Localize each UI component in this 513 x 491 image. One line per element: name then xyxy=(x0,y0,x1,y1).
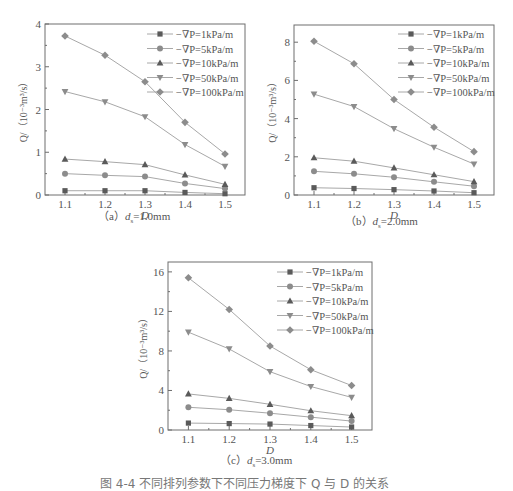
y-tick-label: 4 xyxy=(36,18,42,30)
legend-label: −∇P=100kPa/m xyxy=(306,325,374,336)
subcaption-c: （c）ds=3.0mm xyxy=(220,451,292,469)
diamond-marker-icon xyxy=(470,148,478,156)
triangle-down-marker-icon xyxy=(348,395,355,401)
series-circle xyxy=(185,404,354,424)
triangle-down-marker-icon xyxy=(471,161,478,167)
square-marker-icon xyxy=(311,185,316,190)
series-triangle-down xyxy=(185,330,355,401)
legend-label: −∇P=5kPa/m xyxy=(176,44,233,55)
x-tick-label: 1.4 xyxy=(427,198,441,210)
chart-a-svg: 012341.11.21.31.41.5DQ/（10⁻³m³/s）−∇P=1kP… xyxy=(0,0,260,232)
circle-marker-icon xyxy=(267,410,273,416)
y-tick-label: 0 xyxy=(159,424,165,436)
legend: −∇P=1kPa/m−∇P=5kPa/m−∇P=10kPa/m−∇P=50kPa… xyxy=(147,29,244,98)
triangle-up-marker-icon xyxy=(62,155,69,161)
triangle-up-marker-icon xyxy=(311,154,318,160)
x-tick-label: 1.5 xyxy=(345,433,359,445)
y-tick-label: 0 xyxy=(36,189,42,201)
x-tick-label: 1.4 xyxy=(178,198,192,210)
legend-label: −∇P=10kPa/m xyxy=(176,58,238,69)
circle-marker-icon xyxy=(351,171,357,177)
chart-panel-b: 024681.11.21.31.41.5DQ/（10⁻³m³/s）−∇P=1kP… xyxy=(253,0,513,232)
square-marker-icon xyxy=(142,188,147,193)
y-tick-label: 16 xyxy=(153,266,165,278)
y-tick-label: 1 xyxy=(36,146,42,158)
diamond-marker-icon xyxy=(310,37,318,45)
chart-panel-c: 04812161.11.21.31.41.5DQ/（10⁻³m³/s）−∇P=1… xyxy=(120,240,410,460)
y-tick-label: 12 xyxy=(153,305,164,317)
square-marker-icon xyxy=(471,190,476,195)
square-marker-icon xyxy=(62,188,67,193)
square-marker-icon xyxy=(287,269,292,274)
legend-label: −∇P=100kPa/m xyxy=(427,87,495,98)
square-marker-icon xyxy=(308,423,313,428)
legend-label: −∇P=50kPa/m xyxy=(306,311,368,322)
triangle-down-marker-icon xyxy=(182,142,189,148)
legend-label: −∇P=1kPa/m xyxy=(427,29,484,40)
chart-b-svg: 024681.11.21.31.41.5DQ/（10⁻³m³/s）−∇P=1kP… xyxy=(253,0,513,232)
square-marker-icon xyxy=(227,421,232,426)
subcaption-a: （a）ds=1.0mm xyxy=(98,207,170,225)
square-marker-icon xyxy=(349,424,354,429)
subcaption-b-value: =2.0mm xyxy=(381,215,418,227)
legend-label: −∇P=1kPa/m xyxy=(306,267,363,278)
square-marker-icon xyxy=(431,188,436,193)
legend-label: −∇P=10kPa/m xyxy=(427,58,489,69)
circle-marker-icon xyxy=(431,179,437,185)
circle-marker-icon xyxy=(226,407,232,413)
circle-marker-icon xyxy=(311,168,317,174)
y-axis-label: Q/（10⁻³m³/s） xyxy=(18,77,29,143)
circle-marker-icon xyxy=(62,171,68,177)
circle-marker-icon xyxy=(391,174,397,180)
legend-label: −∇P=50kPa/m xyxy=(176,73,238,84)
x-tick-label: 1.2 xyxy=(347,198,361,210)
y-tick-label: 4 xyxy=(159,384,165,396)
square-marker-icon xyxy=(391,187,396,192)
diamond-marker-icon xyxy=(430,123,438,131)
legend-label: −∇P=5kPa/m xyxy=(427,44,484,55)
x-tick-label: 1.5 xyxy=(467,198,481,210)
circle-marker-icon xyxy=(142,174,148,180)
series-triangle-down xyxy=(62,89,229,170)
y-axis-label: Q/（10⁻³m³/s） xyxy=(138,313,149,379)
diamond-marker-icon xyxy=(101,51,109,59)
square-marker-icon xyxy=(157,31,162,36)
subcaption-a-value: =1.0mm xyxy=(133,210,170,222)
diamond-marker-icon xyxy=(61,32,69,40)
circle-marker-icon xyxy=(349,418,355,424)
circle-marker-icon xyxy=(102,172,108,178)
triangle-down-marker-icon xyxy=(222,164,229,170)
triangle-down-marker-icon xyxy=(351,104,358,110)
series-circle xyxy=(311,168,477,189)
legend-label: −∇P=10kPa/m xyxy=(306,296,368,307)
square-marker-icon xyxy=(182,190,187,195)
x-tick-label: 1.1 xyxy=(182,433,196,445)
legend: −∇P=1kPa/m−∇P=5kPa/m−∇P=10kPa/m−∇P=50kPa… xyxy=(277,267,374,336)
x-tick-label: 1.2 xyxy=(222,433,236,445)
legend-label: −∇P=5kPa/m xyxy=(306,282,363,293)
triangle-up-marker-icon xyxy=(185,390,192,396)
subcaption-b: （b）ds=2.0mm xyxy=(345,212,418,230)
y-tick-label: 8 xyxy=(159,345,165,357)
legend-label: −∇P=100kPa/m xyxy=(176,87,244,98)
x-tick-label: 1.5 xyxy=(218,198,232,210)
circle-marker-icon xyxy=(408,46,414,52)
y-tick-label: 6 xyxy=(285,74,291,86)
circle-marker-icon xyxy=(185,404,191,410)
y-tick-label: 4 xyxy=(285,113,291,125)
circle-marker-icon xyxy=(157,46,163,52)
circle-marker-icon xyxy=(182,180,188,186)
chart-panel-a: 012341.11.21.31.41.5DQ/（10⁻³m³/s）−∇P=1kP… xyxy=(0,0,260,232)
x-tick-label: 1.4 xyxy=(304,433,318,445)
subcaption-c-value: =3.0mm xyxy=(255,454,292,466)
square-marker-icon xyxy=(186,420,191,425)
square-marker-icon xyxy=(351,186,356,191)
square-marker-icon xyxy=(222,191,227,196)
chart-c-svg: 04812161.11.21.31.41.5DQ/（10⁻³m³/s）−∇P=1… xyxy=(120,240,410,460)
figure-caption: 图 4-4 不同排列参数下不同压力梯度下 Q 与 D 的关系 xyxy=(100,474,389,491)
y-tick-label: 2 xyxy=(36,104,42,116)
y-tick-label: 8 xyxy=(285,36,291,48)
y-tick-label: 2 xyxy=(285,151,291,163)
y-tick-label: 0 xyxy=(285,189,291,201)
legend-label: −∇P=1kPa/m xyxy=(176,29,233,40)
